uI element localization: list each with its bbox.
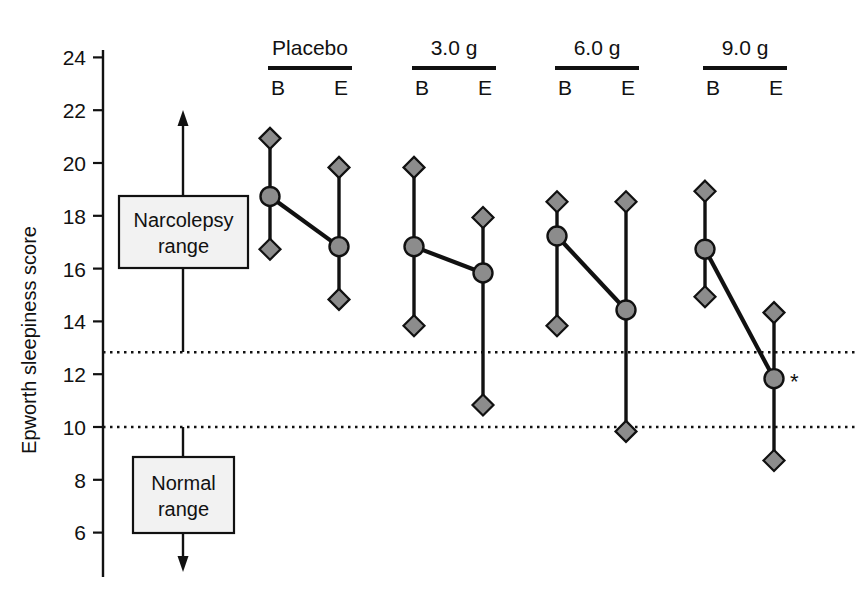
upper-bound-diamond-end xyxy=(616,191,637,212)
narcolepsy-range-label-line1: Narcolepsy xyxy=(133,209,233,231)
group-label-9g: 9.0 g xyxy=(722,36,769,59)
connector-line xyxy=(270,196,339,246)
lower-bound-diamond-baseline xyxy=(260,239,281,260)
y-tick-label-10: 10 xyxy=(63,416,86,439)
timepoint-label-6g-e: E xyxy=(621,76,635,99)
lower-bound-diamond-end xyxy=(473,395,494,416)
group-label-6g: 6.0 g xyxy=(574,36,621,59)
connector-line xyxy=(414,247,483,273)
lower-bound-diamond-baseline xyxy=(547,315,568,336)
mean-marker-baseline xyxy=(696,240,715,259)
y-tick-label-8: 8 xyxy=(74,469,86,492)
upper-bound-diamond-baseline xyxy=(260,128,281,149)
chart-container: 24 22 20 18 16 14 12 10 8 6 Epworth slee… xyxy=(0,0,861,603)
lower-bound-diamond-baseline xyxy=(404,315,425,336)
arrow-up-icon xyxy=(178,110,189,126)
group-label-placebo: Placebo xyxy=(272,36,348,59)
mean-marker-end xyxy=(330,237,349,256)
series-group-3-0-g xyxy=(404,157,494,416)
y-tick-label-6: 6 xyxy=(74,521,86,544)
normal-range-label-line2: range xyxy=(158,498,209,520)
series-group-placebo xyxy=(260,128,350,310)
upper-bound-diamond-end xyxy=(764,302,785,323)
mean-marker-baseline xyxy=(405,237,424,256)
timepoint-label-3g-e: E xyxy=(478,76,492,99)
group-headers: Placebo B E 3.0 g B E 6.0 g B E 9.0 g B … xyxy=(268,36,787,99)
narcolepsy-range-annotation: Narcolepsy range xyxy=(119,110,248,352)
mean-marker-baseline xyxy=(548,227,567,246)
upper-bound-diamond-end xyxy=(329,157,350,178)
mean-marker-end xyxy=(617,300,636,319)
connector-line xyxy=(557,236,626,310)
lower-bound-diamond-end xyxy=(329,289,350,310)
group-label-3g: 3.0 g xyxy=(431,36,478,59)
timepoint-label-9g-e: E xyxy=(769,76,783,99)
y-tick-label-16: 16 xyxy=(63,258,86,281)
series-group-9-0-g xyxy=(695,181,785,471)
upper-bound-diamond-end xyxy=(473,207,494,228)
significance-asterisk: * xyxy=(790,369,799,394)
y-axis-title: Epworth sleepiness score xyxy=(18,226,40,454)
mean-marker-end xyxy=(474,264,493,283)
narcolepsy-range-label-line2: range xyxy=(158,235,209,257)
normal-range-label-line1: Normal xyxy=(151,472,215,494)
y-tick-label-12: 12 xyxy=(63,363,86,386)
y-tick-label-22: 22 xyxy=(63,99,86,122)
lower-bound-diamond-end xyxy=(616,421,637,442)
timepoint-label-9g-b: B xyxy=(706,76,720,99)
timepoint-label-placebo-b: B xyxy=(271,76,285,99)
y-tick-label-18: 18 xyxy=(63,205,86,228)
timepoint-label-3g-b: B xyxy=(415,76,429,99)
mean-marker-baseline xyxy=(261,187,280,206)
normal-range-annotation: Normal range xyxy=(133,427,234,572)
timepoint-label-placebo-e: E xyxy=(334,76,348,99)
upper-bound-diamond-baseline xyxy=(547,191,568,212)
y-tick-label-20: 20 xyxy=(63,152,86,175)
lower-bound-diamond-end xyxy=(764,450,785,471)
y-tick-label-24: 24 xyxy=(63,46,87,69)
upper-bound-diamond-baseline xyxy=(695,181,716,202)
y-axis-ticks xyxy=(93,57,103,532)
timepoint-label-6g-b: B xyxy=(558,76,572,99)
data-series-layer xyxy=(260,128,785,471)
upper-bound-diamond-baseline xyxy=(404,157,425,178)
lower-bound-diamond-baseline xyxy=(695,286,716,307)
epworth-sleepiness-chart: 24 22 20 18 16 14 12 10 8 6 Epworth slee… xyxy=(0,0,861,603)
arrow-down-icon xyxy=(178,556,189,572)
mean-marker-end xyxy=(765,369,784,388)
y-tick-label-14: 14 xyxy=(63,310,87,333)
series-group-6-0-g xyxy=(547,191,637,442)
